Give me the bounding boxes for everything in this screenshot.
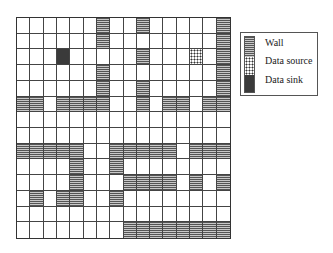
grid-cell-wall [70,159,83,175]
grid-cell [97,191,110,207]
grid-cell-wall [97,65,110,81]
grid-cell [217,191,230,207]
grid-cell-wall [163,144,176,160]
grid-cell [30,128,43,144]
grid-cell [150,112,163,128]
grid-cell [137,191,150,207]
grid-cell [110,97,123,113]
grid-cell [44,112,57,128]
grid-cell-wall [17,144,30,160]
grid-cell-wall [137,144,150,160]
grid-cell [124,112,137,128]
grid-cell [44,222,57,238]
grid-cell [57,65,70,81]
grid-cell [57,34,70,50]
grid-cell-wall [150,222,163,238]
grid-cell [124,159,137,175]
grid-cell [97,222,110,238]
grid-cell [70,207,83,223]
grid-cell-wall [124,222,137,238]
grid-cell-wall [163,97,176,113]
grid-cell-wall [70,144,83,160]
grid-cell-wall [44,144,57,160]
grid-cell [84,207,97,223]
grid-cell-wall [217,175,230,191]
grid-cell [57,112,70,128]
grid-cell [177,175,190,191]
grid-cell [177,207,190,223]
grid-cell [44,81,57,97]
grid-cell [30,112,43,128]
grid-cell [150,81,163,97]
grid-cell [177,112,190,128]
grid-cell [17,65,30,81]
grid-cell [124,18,137,34]
legend-swatch-source [245,57,254,75]
grid-cell [110,222,123,238]
grid-cell [70,18,83,34]
grid-cell [163,159,176,175]
grid-cell [163,81,176,97]
grid-cell [163,112,176,128]
grid-cell [30,159,43,175]
grid-cell [70,128,83,144]
grid-cell-wall [124,144,137,160]
grid-cell-wall [217,81,230,97]
grid-cell [150,159,163,175]
grid-cell-sink [57,49,70,65]
grid-cell [124,81,137,97]
grid-cell [163,191,176,207]
grid-cell [150,49,163,65]
grid-cell-wall [203,144,216,160]
grid-cell [84,159,97,175]
grid-cell [17,49,30,65]
grid-cell [203,112,216,128]
legend-swatch-wall [245,37,254,57]
grid-cell-wall [137,175,150,191]
legend-swatch-sink [245,75,254,92]
grid-cell [97,159,110,175]
grid-cell [110,128,123,144]
grid-cell-wall [217,65,230,81]
grid-cell [203,191,216,207]
grid-cell [84,49,97,65]
grid-cell-wall [177,97,190,113]
grid-cell-wall [163,222,176,238]
grid-cell [70,112,83,128]
grid-cell [30,49,43,65]
grid-cell [97,112,110,128]
grid-cell [84,222,97,238]
grid-cell [217,128,230,144]
grid-cell [177,65,190,81]
grid-cell [17,18,30,34]
grid-cell [44,49,57,65]
legend-label-sink: Data sink [265,74,303,85]
grid-cell [150,65,163,81]
grid-cell-wall [217,222,230,238]
grid-cell [97,207,110,223]
grid-cell [57,159,70,175]
grid-cell [190,97,203,113]
grid-cell [203,175,216,191]
grid-cell-wall [137,97,150,113]
grid-cell-wall [217,34,230,50]
grid-cell [110,34,123,50]
grid-cell [44,128,57,144]
grid-cell [190,128,203,144]
grid-cell-wall [177,222,190,238]
grid-cell [110,207,123,223]
grid-cell [163,34,176,50]
grid-cell [17,191,30,207]
grid-cell-wall [97,34,110,50]
grid-cell [110,65,123,81]
legend-label-source: Data source [265,55,312,66]
grid-cell [57,128,70,144]
grid-cell [177,144,190,160]
grid-cell [44,34,57,50]
grid-cell [97,128,110,144]
grid-cell [84,112,97,128]
grid-cell [57,222,70,238]
grid-cell [190,112,203,128]
grid-cell [110,175,123,191]
grid-cell [44,207,57,223]
